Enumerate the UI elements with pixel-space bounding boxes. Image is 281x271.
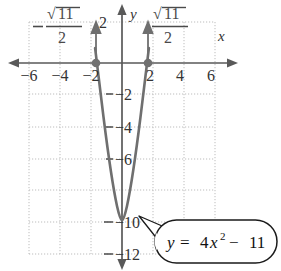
y-tick-label: −10 [115,214,140,231]
coordinate-plane: √ 11 2 √ 11 2 x y −6 −4 −2 2 4 6 2 [0,0,281,271]
x-tick-label: −6 [20,67,37,84]
radicand-left: 11 [58,5,73,22]
y-axis-arrow-up [117,4,126,15]
y-tick-label: 2 [99,14,107,31]
x-tick-label: 2 [146,67,154,84]
root-label-left: √ 11 2 [33,5,82,46]
x-axis-arrow-left [8,58,19,67]
x-tick-label: 6 [207,67,215,84]
equation-minus: − [229,233,239,252]
x-tick-labels: −6 −4 −2 2 4 6 [20,67,215,84]
y-axis-label: y [128,6,137,22]
radical-symbol-right: √ [153,5,162,22]
root-pointer-right-arrow [144,22,153,33]
y-tick-label: −2 [115,86,132,103]
x-tick-label: −2 [82,67,99,84]
equation-exponent: 2 [220,230,226,242]
y-tick-label: −6 [115,151,132,168]
x-axis-arrow-right [227,58,238,67]
equation-coefficient: 4 [200,233,209,252]
equation-lhs: y [165,233,175,252]
equation-constant: 11 [249,233,265,252]
x-axis-label: x [217,28,225,44]
denominator-right: 2 [164,29,172,46]
x-tick-label: −4 [51,67,68,84]
graph-figure: √ 11 2 √ 11 2 x y −6 −4 −2 2 4 6 2 [0,0,281,271]
y-tick-label: −4 [115,119,132,136]
equation-equals: = [180,233,190,252]
equation-text: y = 4 x 2 − 11 [165,230,265,252]
equation-variable: x [209,233,218,252]
radicand-right: 11 [164,5,179,22]
denominator-left: 2 [58,29,66,46]
y-tick-label: −12 [115,246,140,263]
x-tick-label: 4 [176,67,184,84]
radical-symbol-left: √ [47,5,56,22]
root-label-right: √ 11 2 [152,5,188,46]
